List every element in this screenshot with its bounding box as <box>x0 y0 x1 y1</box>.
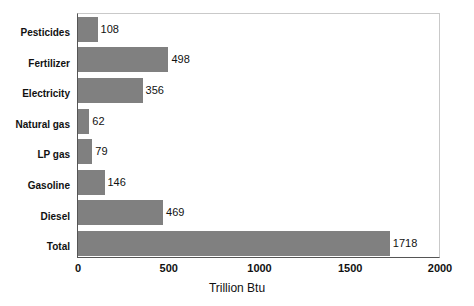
bar-row: 62 <box>78 106 439 137</box>
category-label-diesel: Diesel <box>0 212 70 222</box>
bar-value-lp-gas: 79 <box>92 146 107 157</box>
category-label-total: Total <box>0 242 70 252</box>
bar-row: 469 <box>78 198 439 229</box>
bar-total[interactable] <box>78 231 390 256</box>
x-tick-label-2000: 2000 <box>428 263 452 274</box>
x-tick-label-1500: 1500 <box>338 263 362 274</box>
category-label-lp-gas: LP gas <box>0 150 70 160</box>
bar-value-total: 1718 <box>390 238 417 249</box>
bar-pesticides[interactable] <box>78 17 98 42</box>
bar-fertilizer[interactable] <box>78 47 168 72</box>
bar-value-pesticides: 108 <box>98 24 119 35</box>
bar-value-fertilizer: 498 <box>168 54 189 65</box>
category-label-fertilizer: Fertilizer <box>0 59 70 69</box>
bar-gasoline[interactable] <box>78 170 105 195</box>
bar-row: 1718 <box>78 228 439 259</box>
x-tick-label-0: 0 <box>75 263 81 274</box>
bar-value-diesel: 469 <box>163 207 184 218</box>
bar-value-natural-gas: 62 <box>89 116 104 127</box>
category-label-pesticides: Pesticides <box>0 28 70 38</box>
bar-natural-gas[interactable] <box>78 109 89 134</box>
x-axis-title: Trillion Btu <box>0 282 474 295</box>
bar-diesel[interactable] <box>78 200 163 225</box>
x-tick-label-500: 500 <box>160 263 178 274</box>
bar-row: 79 <box>78 136 439 167</box>
x-tick-label-1000: 1000 <box>247 263 271 274</box>
bar-chart-figure: Pesticides Fertilizer Electricity Natura… <box>0 0 474 306</box>
bar-electricity[interactable] <box>78 78 143 103</box>
category-label-natural-gas: Natural gas <box>0 120 70 130</box>
bar-row: 356 <box>78 75 439 106</box>
bar-row: 146 <box>78 167 439 198</box>
bar-value-gasoline: 146 <box>105 177 126 188</box>
bar-row: 108 <box>78 14 439 45</box>
bar-row: 498 <box>78 45 439 76</box>
plot-area: 108 498 356 62 79 146 469 1718 <box>77 13 440 258</box>
category-label-gasoline: Gasoline <box>0 181 70 191</box>
bar-value-electricity: 356 <box>143 85 164 96</box>
category-label-electricity: Electricity <box>0 89 70 99</box>
bar-lp-gas[interactable] <box>78 139 92 164</box>
